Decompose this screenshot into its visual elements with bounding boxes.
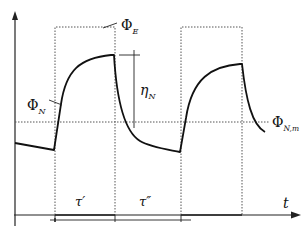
- phi-e-label: ΦE: [121, 17, 138, 36]
- t-axis-label: t: [283, 195, 289, 211]
- eta-n-dimension: [119, 50, 140, 128]
- tau-prime-label: τ′: [75, 194, 85, 209]
- eta-n-label: ηN: [140, 82, 156, 101]
- diagram-canvas: ΦE ΦN ηN ΦN,m τ′ τ″ t: [0, 0, 305, 229]
- response-curve: [15, 55, 265, 152]
- waveform-diagram: ΦE ΦN ηN ΦN,m τ′ τ″ t: [0, 0, 305, 229]
- pulse-2: [181, 27, 242, 215]
- tau-double-prime-label: τ″: [139, 194, 151, 209]
- phi-nm-label: ΦN,m: [272, 114, 299, 133]
- phi-n-label: ΦN: [27, 97, 46, 116]
- excitation-pulses: [15, 27, 270, 215]
- y-axis: [12, 11, 18, 226]
- tau-dimension: [50, 193, 191, 222]
